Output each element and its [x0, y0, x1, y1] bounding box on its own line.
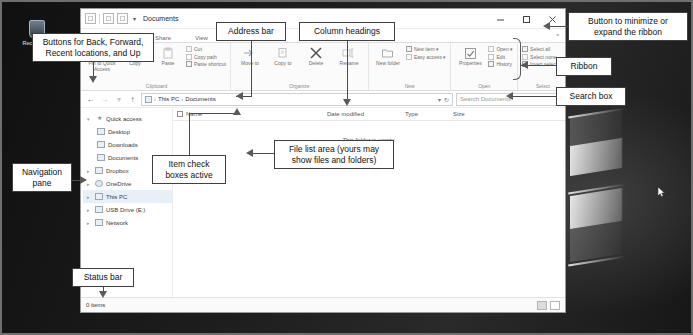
- chevron-right-icon[interactable]: ▸: [87, 181, 92, 187]
- paste-label: Paste: [162, 61, 175, 67]
- ribbon-brace: [513, 38, 521, 80]
- paste-shortcut-label: Paste shortcut: [194, 61, 226, 67]
- details-view-button[interactable]: [537, 301, 547, 310]
- delete-button[interactable]: Delete: [301, 45, 331, 67]
- network-icon: [95, 219, 103, 226]
- open-button[interactable]: Open ▾: [488, 46, 513, 52]
- sidebar-item-label: USB Drive (E:): [106, 207, 145, 213]
- large-icons-view-button[interactable]: [550, 301, 560, 310]
- history-label: History: [496, 61, 512, 67]
- sidebar-item-usb-drive[interactable]: ▸ USB Drive (E:): [83, 203, 172, 216]
- chevron-right-icon[interactable]: ▸: [87, 194, 92, 200]
- scissors-icon: [186, 46, 192, 52]
- paste-shortcut-button[interactable]: Paste shortcut: [186, 61, 226, 67]
- view-buttons: [537, 301, 560, 310]
- breadcrumb-separator-1: ›: [154, 96, 156, 102]
- paste-shortcut-icon: [186, 61, 192, 67]
- copy-path-icon: [186, 54, 192, 60]
- back-button[interactable]: ←: [85, 95, 96, 104]
- this-pc-breadcrumb-icon: [145, 96, 152, 103]
- new-item-icon: [406, 46, 412, 52]
- column-heading-date-modified[interactable]: Date modified: [323, 111, 401, 117]
- breadcrumb-this-pc[interactable]: This PC: [158, 96, 179, 102]
- column-heading-name[interactable]: Name: [173, 111, 323, 117]
- connector-ribbon-toggle: [549, 26, 569, 27]
- connector-item-check-boxes-h: [189, 113, 237, 114]
- edit-button[interactable]: Edit: [488, 54, 513, 60]
- pin-to-quick-access-label: Pin to Quick Access: [87, 61, 117, 73]
- tab-share[interactable]: Share: [151, 35, 175, 42]
- new-folder-button[interactable]: New folder: [373, 45, 403, 67]
- callout-search-box: Search box: [556, 87, 626, 106]
- new-folder-label: New folder: [376, 61, 400, 67]
- ribbon-group-label-open: Open: [478, 83, 490, 89]
- chevron-right-icon[interactable]: ▸: [87, 168, 92, 174]
- qat-properties-icon[interactable]: [103, 13, 114, 24]
- this-pc-icon: [95, 193, 103, 200]
- open-icon: [488, 46, 494, 52]
- select-all-checkbox[interactable]: [177, 111, 183, 117]
- column-headings: Name Date modified Type Size: [173, 108, 565, 121]
- chevron-right-icon[interactable]: ▸: [87, 220, 92, 226]
- address-dropdown-chevron-down-icon[interactable]: ▾: [438, 96, 441, 103]
- file-list-area[interactable]: Name Date modified Type Size This folder…: [173, 108, 565, 297]
- copy-to-button[interactable]: Copy to: [268, 45, 298, 67]
- arrow-navigation-pane: [80, 176, 87, 184]
- properties-button[interactable]: Properties: [455, 45, 485, 67]
- paste-button[interactable]: Paste: [153, 45, 183, 67]
- paste-icon: [162, 45, 174, 61]
- easy-access-button[interactable]: Easy access ▾: [406, 54, 446, 60]
- ribbon-group-new: New folder New item ▾ Easy access ▾ New: [369, 43, 451, 90]
- select-none-icon: [522, 54, 528, 60]
- edit-label: Edit: [496, 54, 505, 60]
- open-small-buttons: Open ▾ Edit History: [488, 45, 513, 67]
- address-bar[interactable]: › This PC › Documents ▾ ↻: [141, 93, 453, 106]
- sidebar-item-desktop[interactable]: Desktop: [83, 125, 172, 138]
- chevron-down-icon[interactable]: ▾: [87, 116, 92, 122]
- select-all-button[interactable]: Select all: [522, 46, 564, 52]
- column-heading-size[interactable]: Size: [449, 111, 489, 117]
- rename-button[interactable]: Rename: [334, 45, 364, 67]
- move-to-button[interactable]: Move to: [235, 45, 265, 67]
- callout-item-check-boxes: Item check boxes active: [152, 155, 226, 184]
- arrow-ribbon: [521, 61, 528, 69]
- sidebar-item-network[interactable]: ▸ Network: [83, 216, 172, 229]
- delete-label: Delete: [309, 61, 323, 67]
- wallpaper-pane-4: [570, 221, 622, 262]
- copy-path-label: Copy path: [194, 54, 217, 60]
- qat-customize-chevron-down-icon[interactable]: ▾: [131, 15, 138, 22]
- maximize-button[interactable]: [513, 9, 539, 29]
- quick-access-toolbar[interactable]: ▾: [81, 13, 138, 24]
- sidebar-item-this-pc[interactable]: ▸ This PC: [83, 190, 172, 203]
- forward-button[interactable]: →: [99, 95, 110, 104]
- copy-path-button[interactable]: Copy path: [186, 54, 226, 60]
- callout-navigation-pane: Navigation pane: [12, 163, 72, 192]
- address-bar-row: ← → ▾ ↑ › This PC › Documents ▾ ↻ Search…: [81, 91, 565, 108]
- recent-locations-button[interactable]: ▾: [113, 95, 124, 104]
- callout-ribbon-toggle: Button to minimize or expand the ribbon: [568, 12, 688, 41]
- ribbon-group-label-organize: Organize: [289, 83, 309, 89]
- ribbon-minimize-expand-button[interactable]: ^: [556, 33, 559, 39]
- minimize-button[interactable]: [487, 9, 513, 29]
- refresh-icon[interactable]: ↻: [444, 96, 449, 103]
- ribbon-group-label-select: Select: [536, 83, 550, 89]
- new-item-button[interactable]: New item ▾: [406, 46, 446, 52]
- easy-access-label: Easy access ▾: [414, 54, 446, 60]
- history-button[interactable]: History: [488, 61, 513, 67]
- column-heading-type[interactable]: Type: [401, 111, 449, 117]
- edit-icon: [488, 54, 494, 60]
- arrow-item-check-boxes: [233, 108, 241, 115]
- qat-separator-1: [99, 14, 100, 24]
- sidebar-item-quick-access[interactable]: ▾ ★ Quick access: [83, 112, 172, 125]
- breadcrumb-documents[interactable]: Documents: [185, 96, 215, 102]
- file-explorer-app-icon[interactable]: [85, 13, 96, 24]
- tab-view[interactable]: View: [191, 35, 212, 42]
- chevron-right-icon[interactable]: ▸: [87, 207, 92, 213]
- usb-drive-icon: [95, 206, 103, 213]
- item-count-label: 0 items: [86, 302, 105, 308]
- sidebar-item-downloads[interactable]: Downloads: [83, 138, 172, 151]
- up-button[interactable]: ↑: [127, 95, 138, 104]
- cut-button[interactable]: Cut: [186, 46, 226, 52]
- qat-new-folder-icon[interactable]: [117, 13, 128, 24]
- sidebar-item-label: Downloads: [108, 142, 138, 148]
